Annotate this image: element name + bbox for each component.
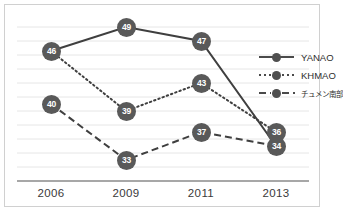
legend-symbol-dashed-icon — [257, 87, 297, 99]
series-line-yanao — [51, 27, 276, 146]
legend-label-yanao: YANAO — [301, 52, 334, 63]
series-line-khmao — [51, 51, 276, 132]
legend-entry-khmao[interactable]: KHMAO — [257, 68, 336, 82]
legend-entry-yanao[interactable]: YANAO — [257, 50, 334, 64]
x-tick-label-2013: 2013 — [246, 187, 306, 199]
legend-symbol-solid-icon — [257, 51, 297, 63]
x-tick-label-2011: 2011 — [171, 187, 231, 199]
x-tick-label-2006: 2006 — [21, 187, 81, 199]
data-point-khmao-2011: 43 — [192, 74, 211, 93]
data-point-tyumen-2006: 40 — [42, 95, 61, 114]
data-point-khmao-2009: 39 — [117, 102, 136, 121]
data-point-yanao-2009: 49 — [117, 18, 136, 37]
legend-label-khmao: KHMAO — [301, 70, 336, 81]
legend-label-tyumen: チュメン南部 — [301, 88, 343, 99]
legend-symbol-dotted-icon — [257, 69, 297, 81]
data-point-tyumen-2013: 34 — [267, 137, 286, 156]
chart-container: 46 49 47 39 43 36 40 33 37 34 2006 2009 … — [4, 4, 320, 207]
legend-entry-tyumen[interactable]: チュメン南部 — [257, 86, 343, 100]
x-tick-label-2009: 2009 — [96, 187, 156, 199]
data-point-tyumen-2009: 33 — [117, 151, 136, 170]
data-point-yanao-2011: 47 — [192, 32, 211, 51]
series-line-tyumen — [51, 104, 276, 160]
data-point-tyumen-2011: 37 — [192, 123, 211, 142]
data-point-yanao-2006: 46 — [42, 42, 61, 61]
